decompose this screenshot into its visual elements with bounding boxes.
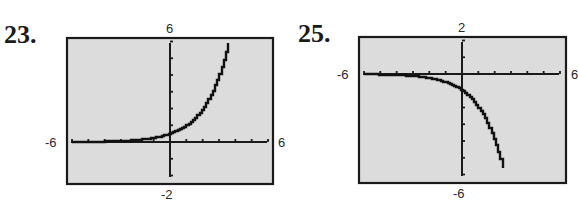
- graphing-calculator-screens: [0, 0, 576, 204]
